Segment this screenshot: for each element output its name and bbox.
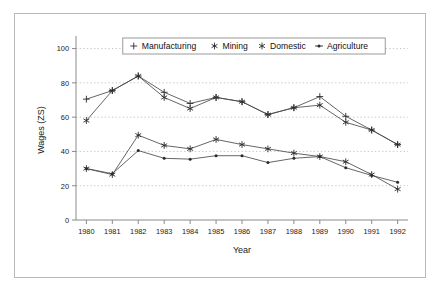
x-tick-label-1981: 1981	[104, 227, 120, 236]
wages-line-chart: 0204060801001980198119821983198419851986…	[0, 0, 442, 293]
point-agriculture-1980	[85, 167, 88, 170]
legend-label-manufacturing: Manufacturing	[142, 41, 197, 51]
legend-label-agriculture: Agriculture	[327, 41, 368, 51]
y-tick-label-40: 40	[61, 147, 69, 156]
point-agriculture-1982	[137, 149, 140, 152]
x-tick-label-1983: 1983	[156, 227, 172, 236]
point-agriculture-1983	[163, 157, 166, 160]
series-agriculture	[85, 149, 399, 184]
point-agriculture-1991	[370, 174, 373, 177]
x-tick-label-1988: 1988	[286, 227, 302, 236]
point-agriculture-1989	[318, 155, 321, 158]
series-mining	[83, 73, 400, 148]
y-tick-label-60: 60	[61, 113, 69, 122]
x-tick-label-1984: 1984	[182, 227, 198, 236]
x-tick-label-1987: 1987	[260, 227, 276, 236]
series-line-mining	[86, 76, 397, 145]
x-tick-label-1991: 1991	[363, 227, 379, 236]
x-tick-label-1986: 1986	[234, 227, 250, 236]
point-agriculture-1981	[111, 172, 114, 175]
y-tick-label-0: 0	[65, 216, 69, 225]
point-agriculture-1990	[344, 166, 347, 169]
x-tick-label-1982: 1982	[130, 227, 146, 236]
x-tick-label-1980: 1980	[78, 227, 94, 236]
point-agriculture-1987	[266, 161, 269, 164]
x-tick-label-1989: 1989	[312, 227, 328, 236]
legend-label-domestic: Domestic	[270, 41, 307, 51]
point-agriculture-1985	[215, 154, 218, 157]
chart-legend: ManufacturingMiningDomesticAgriculture	[123, 38, 386, 54]
chart-container: 0204060801001980198119821983198419851986…	[0, 0, 442, 293]
x-tick-label-1990: 1990	[338, 227, 354, 236]
legend-dot-icon	[318, 45, 321, 48]
x-axis-title: Year	[233, 245, 251, 255]
y-tick-label-100: 100	[57, 44, 69, 53]
point-agriculture-1988	[292, 157, 295, 160]
legend-label-mining: Mining	[223, 41, 249, 51]
y-tick-label-20: 20	[61, 182, 69, 191]
y-tick-label-80: 80	[61, 79, 69, 88]
series-domestic	[83, 132, 400, 193]
point-agriculture-1986	[241, 154, 244, 157]
y-axis-title: Wages (ZS)	[36, 106, 46, 154]
x-tick-label-1992: 1992	[389, 227, 405, 236]
series-manufacturing	[83, 73, 401, 148]
point-agriculture-1984	[189, 158, 192, 161]
x-tick-label-1985: 1985	[208, 227, 224, 236]
series-line-manufacturing	[86, 76, 397, 145]
point-agriculture-1992	[396, 181, 399, 184]
